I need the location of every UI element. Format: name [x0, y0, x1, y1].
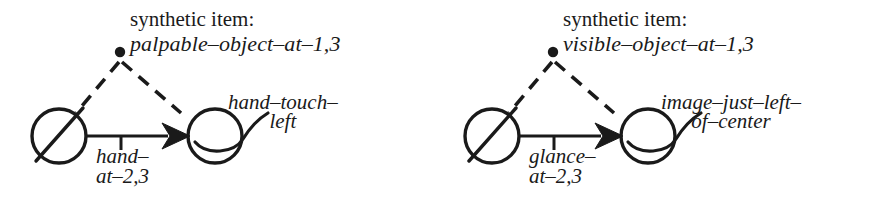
diagram-canvas: synthetic item: palpable–object–at–1,3 h… [0, 0, 871, 198]
connector-label-line2: at–2,3 [529, 166, 595, 187]
connector-label: glance– at–2,3 [529, 146, 595, 188]
target-node-label: hand–touch– left [228, 92, 338, 133]
target-node-label-line2: left [228, 111, 338, 132]
diagram-panel-palpable-object: synthetic item: palpable–object–at–1,3 h… [0, 0, 438, 198]
dashed-link-group [76, 62, 181, 113]
dashed-link-group [509, 62, 614, 113]
dashed-link-right [122, 62, 181, 113]
connector-label-line2: at–2,3 [96, 166, 149, 187]
dashed-link-left [509, 62, 552, 113]
source-node-slashed-circle-icon [32, 108, 86, 163]
synthetic-item-caption: synthetic item: [130, 8, 254, 31]
source-node-slashed-circle-icon [465, 108, 519, 163]
synthetic-item-name: palpable–object–at–1,3 [130, 32, 341, 55]
synthetic-item-dot-icon [115, 47, 125, 57]
connector-label: hand– at–2,3 [96, 146, 149, 188]
dashed-link-right [555, 62, 614, 113]
synthetic-item-name: visible–object–at–1,3 [563, 32, 754, 55]
synthetic-item-caption: synthetic item: [563, 8, 687, 31]
dashed-link-left [76, 62, 119, 113]
synthetic-item-dot-icon [548, 47, 558, 57]
diagram-panel-visible-object: synthetic item: visible–object–at–1,3 gl… [433, 0, 871, 198]
target-node-label-line2: of–center [661, 111, 801, 132]
target-node-label: image–just–left– of–center [661, 92, 801, 133]
